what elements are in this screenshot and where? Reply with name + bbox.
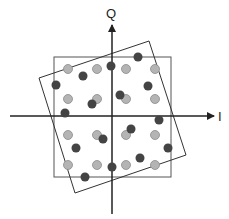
ideal-point xyxy=(64,161,73,170)
rotated-point xyxy=(99,135,108,144)
ideal-point xyxy=(122,161,131,170)
ideal-point xyxy=(151,131,160,140)
ideal-point xyxy=(151,65,160,74)
ideal-point xyxy=(93,65,102,74)
ideal-point xyxy=(64,131,73,140)
rotated-point xyxy=(144,82,153,91)
ideal-point xyxy=(151,95,160,104)
rotated-point xyxy=(52,81,61,90)
ideal-point xyxy=(93,161,102,170)
rotated-point xyxy=(88,100,97,109)
rotated-point xyxy=(164,144,173,153)
ideal-point xyxy=(64,65,73,74)
i-axis-label: I xyxy=(218,109,222,124)
q-axis-label: Q xyxy=(106,6,116,21)
ideal-point xyxy=(151,161,160,170)
rotated-point xyxy=(136,154,145,163)
rotated-point xyxy=(61,109,70,118)
rotated-point xyxy=(155,116,164,125)
iq-constellation-diagram: Q I xyxy=(0,0,229,219)
ideal-point xyxy=(122,65,131,74)
rotated-point xyxy=(72,144,81,153)
rotated-point xyxy=(116,91,125,100)
ideal-point xyxy=(64,95,73,104)
rotated-point xyxy=(127,125,136,134)
rotated-point xyxy=(79,72,88,81)
rotated-point xyxy=(107,62,116,71)
rotated-point xyxy=(108,163,117,172)
rotated-point xyxy=(81,173,90,182)
rotated-point xyxy=(134,53,143,62)
